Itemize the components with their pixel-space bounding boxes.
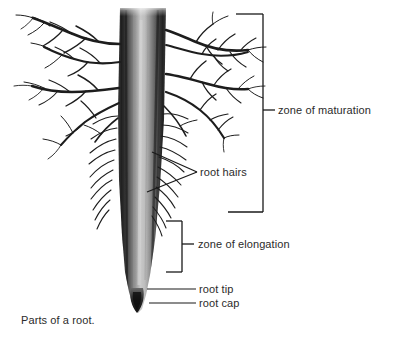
root-diagram-figure: zone of maturation root hairs zone of el… — [0, 0, 397, 341]
label-root-cap: root cap — [199, 297, 240, 310]
label-root-hairs: root hairs — [200, 166, 247, 179]
label-zone-of-elongation: zone of elongation — [198, 238, 290, 251]
lateral-roots-right — [164, 12, 266, 152]
figure-caption: Parts of a root. — [21, 314, 95, 327]
bracket-zone-of-elongation — [166, 221, 194, 272]
bracket-zone-of-maturation — [228, 14, 275, 212]
label-zone-of-maturation: zone of maturation — [278, 104, 371, 117]
lateral-roots-left — [14, 15, 120, 159]
label-root-tip: root tip — [199, 283, 233, 296]
